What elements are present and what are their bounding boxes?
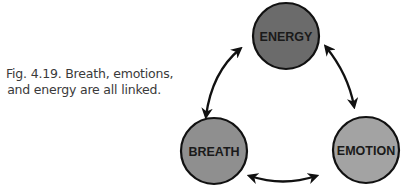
node-breath: BREATH — [181, 118, 247, 184]
arrow-breath-emotion — [250, 176, 316, 182]
node-breath-label: BREATH — [188, 145, 239, 159]
cycle-diagram: ENERGY BREATH EMOTION — [0, 0, 401, 196]
node-emotion: EMOTION — [333, 117, 399, 183]
node-energy: ENERGY — [253, 3, 319, 69]
node-energy-label: ENERGY — [260, 30, 313, 44]
node-emotion-label: EMOTION — [337, 144, 395, 158]
arrow-breath-energy — [206, 49, 240, 116]
arrow-energy-emotion — [326, 47, 354, 106]
